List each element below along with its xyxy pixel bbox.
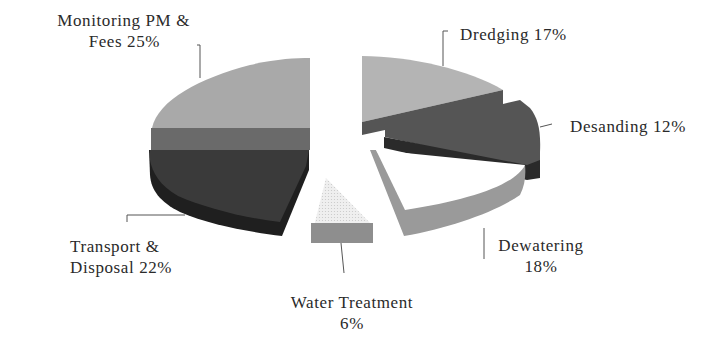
label-desanding: Desanding 12% xyxy=(570,116,686,137)
label-dewatering: Dewatering 18% xyxy=(486,235,596,277)
slice-water-treatment xyxy=(311,178,373,243)
label-transport-line1: Transport & xyxy=(70,236,172,257)
label-monitoring-line1: Monitoring PM & xyxy=(10,10,190,31)
slice-monitoring xyxy=(151,58,310,150)
slice-transport xyxy=(149,150,309,236)
label-water-line2: 6% xyxy=(262,313,442,334)
label-dewatering-line2: 18% xyxy=(486,256,596,277)
label-dredging: Dredging 17% xyxy=(460,24,567,45)
label-monitoring-line2: Fees 25% xyxy=(10,31,190,52)
label-water-treatment: Water Treatment 6% xyxy=(262,292,442,334)
label-transport-line2: Disposal 22% xyxy=(70,257,172,278)
label-transport: Transport & Disposal 22% xyxy=(70,236,172,278)
label-monitoring: Monitoring PM & Fees 25% xyxy=(10,10,190,52)
label-water-line1: Water Treatment xyxy=(262,292,442,313)
label-dewatering-line1: Dewatering xyxy=(486,235,596,256)
slice-dewatering xyxy=(370,150,525,236)
